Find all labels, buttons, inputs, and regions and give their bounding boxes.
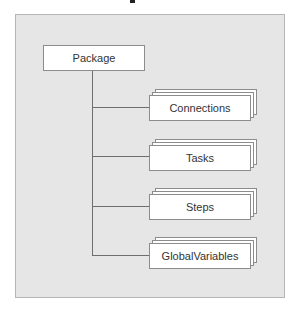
package-node: Package bbox=[43, 45, 145, 71]
connector-connections bbox=[92, 107, 149, 108]
tasks-label: Tasks bbox=[186, 152, 214, 164]
connections-node: Connections bbox=[149, 95, 251, 121]
package-label: Package bbox=[73, 52, 116, 64]
trunk-connector bbox=[92, 71, 93, 256]
connections-label: Connections bbox=[169, 102, 230, 114]
globalvariables-label: GlobalVariables bbox=[162, 250, 239, 262]
connector-tasks bbox=[92, 156, 149, 157]
steps-label: Steps bbox=[186, 201, 214, 213]
tasks-node: Tasks bbox=[149, 145, 251, 171]
globalvariables-node: GlobalVariables bbox=[149, 243, 251, 269]
steps-node: Steps bbox=[149, 194, 251, 220]
connector-steps bbox=[92, 206, 149, 207]
cropped-text-fragment bbox=[130, 0, 135, 3]
connector-globalvariables bbox=[92, 255, 149, 256]
